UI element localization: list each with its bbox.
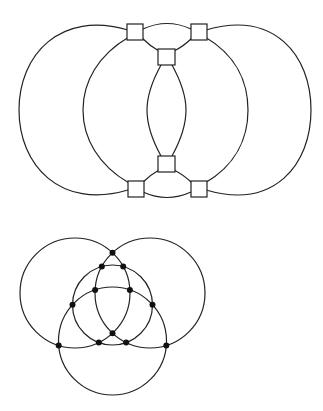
top-graph <box>19 24 311 198</box>
top-arc <box>143 24 191 30</box>
vertex-top-center <box>158 49 175 65</box>
vertex-dot-7 <box>163 343 169 349</box>
lens-left-arc <box>147 65 161 156</box>
short-arc-top-right <box>174 38 192 51</box>
vertex-dot-3 <box>127 287 133 293</box>
top-graph-vertices <box>127 24 207 197</box>
short-arc-top-left <box>142 38 159 51</box>
vertex-top-right <box>191 24 207 40</box>
vertex-dot-5 <box>120 263 126 269</box>
inner-left-arc <box>83 37 129 183</box>
vertex-dot-11 <box>70 302 76 308</box>
bottom-graph <box>20 238 205 395</box>
figure <box>0 0 323 411</box>
vertex-bottom-right <box>191 181 207 197</box>
vertex-dot-9 <box>123 340 129 346</box>
bottom-graph-circles <box>20 238 205 395</box>
inner-right-arc <box>205 37 248 183</box>
outer-left-arc <box>19 25 128 195</box>
vertex-bottom-left <box>128 181 144 197</box>
vertex-dot-2 <box>110 330 116 336</box>
vertex-top-left <box>127 24 143 40</box>
vertex-dot-10 <box>99 263 105 269</box>
vertex-dot-6 <box>96 340 102 346</box>
vertex-dot-8 <box>92 287 98 293</box>
vertex-dot-12 <box>150 302 156 308</box>
figure-canvas <box>0 0 323 411</box>
vertex-dot-1 <box>110 250 116 256</box>
vertex-bottom-center <box>158 156 175 172</box>
vertex-dot-4 <box>56 343 62 349</box>
short-arc-bottom-right <box>174 170 192 183</box>
lens-right-arc <box>172 65 186 156</box>
bottom-arc <box>143 192 191 198</box>
outer-right-arc <box>206 25 311 195</box>
